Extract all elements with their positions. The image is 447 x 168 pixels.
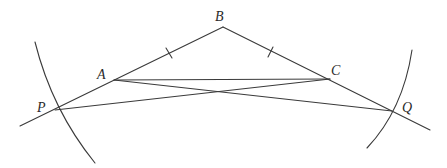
line-BP-extended xyxy=(20,27,223,126)
geometry-figure xyxy=(0,0,447,168)
tick-mark-AB xyxy=(166,48,172,58)
segment-AQ xyxy=(114,80,392,111)
point-label-B: B xyxy=(215,10,224,24)
point-label-A: A xyxy=(97,68,106,82)
segment-PC xyxy=(55,79,330,110)
point-label-Q: Q xyxy=(402,101,412,115)
point-label-P: P xyxy=(37,101,46,115)
segment-AC xyxy=(114,79,330,80)
arc-right xyxy=(367,50,412,148)
point-label-C: C xyxy=(331,64,340,78)
